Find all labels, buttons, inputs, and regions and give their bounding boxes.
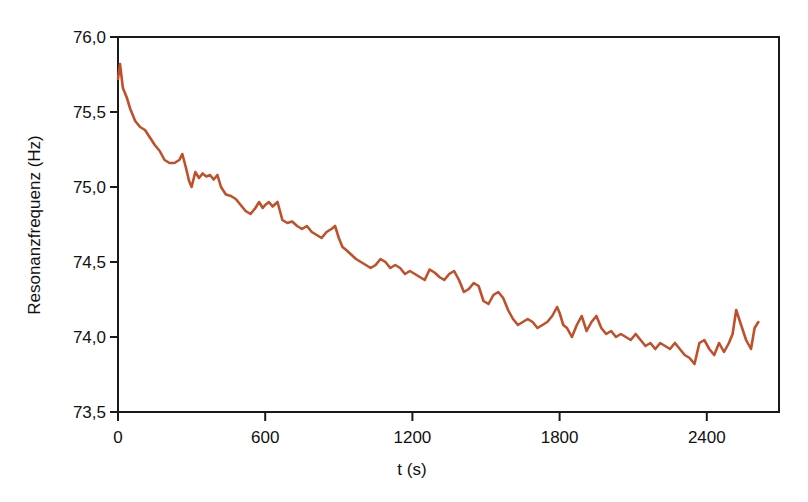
y-tick-label: 75,5: [73, 103, 106, 122]
x-tick-label: 1800: [541, 428, 579, 447]
y-tick-label: 74,5: [73, 253, 106, 272]
x-tick-label: 1200: [393, 428, 431, 447]
x-tick-label: 600: [251, 428, 279, 447]
line-chart: 73,574,074,575,075,576,0 060012001800240…: [0, 0, 808, 502]
plot-frame: [118, 37, 779, 412]
y-tick-label: 75,0: [73, 178, 106, 197]
x-tick-label: 2400: [688, 428, 726, 447]
data-line: [118, 64, 758, 364]
y-tick-label: 73,5: [73, 403, 106, 422]
y-tick-label: 74,0: [73, 328, 106, 347]
x-axis-title: t (s): [397, 460, 426, 479]
x-tick-label: 0: [113, 428, 122, 447]
y-tick-label: 76,0: [73, 28, 106, 47]
y-axis-ticks: 73,574,074,575,075,576,0: [73, 28, 118, 422]
x-axis-ticks: 0600120018002400: [113, 412, 725, 447]
y-axis-title: Resonanzfrequenz (Hz): [25, 135, 44, 315]
